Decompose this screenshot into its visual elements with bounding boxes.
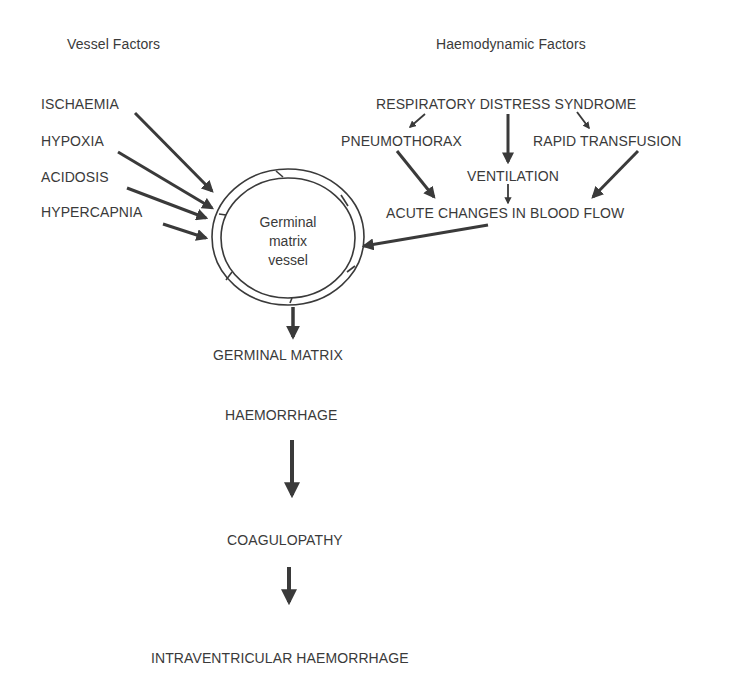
arrow-rds-transfusion — [577, 112, 589, 128]
arrow-hypercapnia — [163, 224, 206, 238]
arrow-transfusion-acute — [593, 151, 638, 197]
germinal-matrix-vessel-label: Germinal matrix vessel — [243, 213, 333, 270]
factor-rapid-transfusion: RAPID TRANSFUSION — [533, 133, 681, 149]
factor-ventilation: VENTILATION — [467, 168, 559, 184]
arrow-rds-pneumothorax — [410, 114, 425, 127]
vessel-label-line2: matrix — [243, 232, 333, 251]
factor-acute-changes: ACUTE CHANGES IN BLOOD FLOW — [386, 205, 624, 221]
factor-hypoxia: HYPOXIA — [41, 133, 104, 149]
arrow-ischaemia — [135, 113, 212, 191]
vessel-factors-header: Vessel Factors — [67, 36, 160, 52]
arrow-acute-vessel — [364, 225, 488, 246]
diagram-canvas: Vessel Factors Haemodynamic Factors ISCH… — [0, 0, 746, 675]
factor-ischaemia: ISCHAEMIA — [41, 96, 119, 112]
vessel-label-line3: vessel — [243, 251, 333, 270]
factor-rds: RESPIRATORY DISTRESS SYNDROME — [376, 96, 636, 112]
cascade-ivh: INTRAVENTRICULAR HAEMORRHAGE — [151, 650, 409, 666]
cascade-germinal-matrix: GERMINAL MATRIX — [213, 347, 343, 363]
haemodynamic-factors-header: Haemodynamic Factors — [436, 36, 586, 52]
arrow-hypoxia — [118, 152, 212, 208]
factor-pneumothorax: PNEUMOTHORAX — [341, 133, 462, 149]
factor-hypercapnia: HYPERCAPNIA — [41, 204, 142, 220]
factor-acidosis: ACIDOSIS — [41, 169, 109, 185]
vessel-label-line1: Germinal — [243, 213, 333, 232]
cascade-coagulopathy: COAGULOPATHY — [227, 532, 343, 548]
arrow-pneumothorax-acute — [397, 151, 434, 197]
cascade-haemorrhage: HAEMORRHAGE — [225, 407, 337, 423]
